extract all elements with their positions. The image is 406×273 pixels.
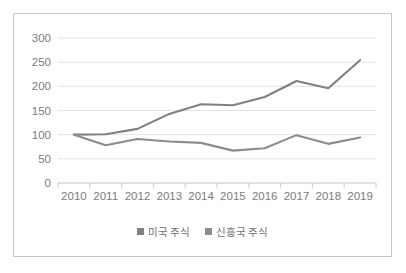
legend-swatch-icon (137, 228, 144, 235)
legend-item[interactable]: 미국 주식 (137, 224, 191, 239)
series-line (74, 60, 360, 134)
x-tick-label: 2012 (125, 190, 151, 202)
y-tick-label: 250 (32, 56, 51, 68)
legend-label: 신흥국 주식 (216, 224, 269, 239)
x-tick-label: 2018 (316, 190, 342, 202)
series-line (74, 135, 360, 151)
y-tick-label: 50 (38, 153, 51, 165)
chart-legend: 미국 주식신흥국 주식 (13, 224, 392, 239)
data-series (74, 60, 360, 150)
y-tick-label: 150 (32, 105, 51, 117)
y-tick-label: 300 (32, 32, 51, 44)
x-tick-label: 2013 (157, 190, 183, 202)
y-tick-label: 100 (32, 129, 51, 141)
x-tick-label: 2017 (284, 190, 310, 202)
y-tick-label: 0 (45, 177, 51, 189)
x-axis-tick-labels: 2010201120122013201420152016201720182019 (61, 190, 373, 202)
x-tick-label: 2010 (61, 190, 87, 202)
x-tick-label: 2014 (188, 190, 214, 202)
x-tick-label: 2015 (220, 190, 246, 202)
x-tick-label: 2019 (347, 190, 373, 202)
legend-label: 미국 주식 (148, 224, 191, 239)
y-tick-label: 200 (32, 80, 51, 92)
y-axis-tick-labels: 050100150200250300 (32, 32, 51, 189)
gridlines (58, 38, 376, 183)
x-tick-label: 2011 (93, 190, 118, 202)
x-tick-label: 2016 (252, 190, 278, 202)
x-axis (58, 183, 376, 188)
legend-item[interactable]: 신흥국 주식 (205, 224, 269, 239)
legend-swatch-icon (205, 228, 212, 235)
